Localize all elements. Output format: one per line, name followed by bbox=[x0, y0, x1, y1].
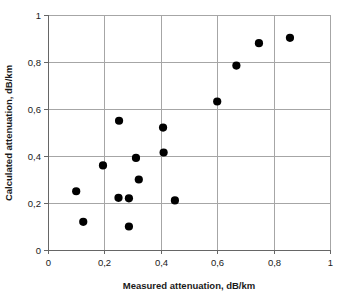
x-axis-title: Measured attenuation, dB/km bbox=[123, 280, 256, 291]
data-point bbox=[114, 194, 122, 202]
y-tick-label: 1 bbox=[36, 10, 41, 21]
scatter-chart: 00,20,40,60,81 00,20,40,60,81 Measured a… bbox=[0, 0, 343, 300]
data-point bbox=[255, 39, 263, 47]
chart-canvas: 00,20,40,60,81 00,20,40,60,81 Measured a… bbox=[0, 0, 343, 300]
y-tick-label: 0,6 bbox=[28, 104, 41, 115]
data-point bbox=[171, 196, 179, 204]
data-point bbox=[135, 175, 143, 183]
x-tick-label: 0,8 bbox=[268, 257, 281, 268]
chart-background bbox=[0, 0, 343, 300]
data-point bbox=[115, 117, 123, 125]
data-point bbox=[132, 154, 140, 162]
x-tick-label: 0 bbox=[46, 257, 51, 268]
data-point bbox=[79, 218, 87, 226]
x-tick-label: 0,4 bbox=[155, 257, 168, 268]
x-tick-label: 1 bbox=[328, 257, 333, 268]
data-point bbox=[159, 123, 167, 131]
y-tick-label: 0,2 bbox=[28, 198, 41, 209]
y-tick-label: 0,4 bbox=[28, 151, 41, 162]
data-point bbox=[232, 61, 240, 69]
y-axis-title: Calculated attenuation, dB/km bbox=[3, 65, 14, 201]
data-point bbox=[99, 161, 107, 169]
data-point bbox=[286, 34, 294, 42]
data-point bbox=[213, 97, 221, 105]
data-point bbox=[160, 148, 168, 156]
y-tick-label: 0 bbox=[36, 245, 41, 256]
x-tick-label: 0,2 bbox=[98, 257, 111, 268]
data-point bbox=[125, 222, 133, 230]
x-tick-label: 0,6 bbox=[211, 257, 224, 268]
data-point bbox=[125, 194, 133, 202]
data-point bbox=[72, 187, 80, 195]
y-tick-label: 0,8 bbox=[28, 57, 41, 68]
